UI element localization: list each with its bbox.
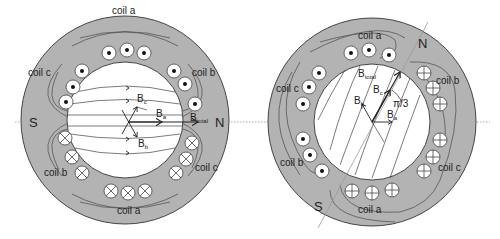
left-coil-c-upper-label: coil c [28, 67, 51, 78]
stator-field-diagram: coil c coil a coil b coil b coil c coil … [0, 0, 500, 239]
right-coil-b-lower-label: coil b [280, 157, 304, 168]
left-coil-c-lower-label: coil c [195, 162, 218, 173]
left-coil-a-top-label: coil a [112, 5, 136, 16]
right-coil-c-lower-label: coil c [438, 162, 461, 173]
left-coil-a-bottom-label: coil a [117, 205, 141, 216]
right-coil-a-bottom-label: coil a [358, 204, 382, 215]
left-south-pole: S [29, 115, 38, 130]
right-coil-a-top-label: coil a [358, 30, 382, 41]
right-south-pole: S [314, 199, 323, 214]
left-coil-b-upper-label: coil b [192, 67, 216, 78]
right-angle-label: π/3 [393, 98, 409, 109]
left-coil-b-lower-label: coil b [44, 167, 68, 178]
left-north-pole: N [215, 115, 224, 130]
right-north-pole: N [418, 36, 427, 51]
right-coil-c-upper-label: coil c [276, 83, 299, 94]
right-coil-b-upper-label: coil b [436, 75, 460, 86]
